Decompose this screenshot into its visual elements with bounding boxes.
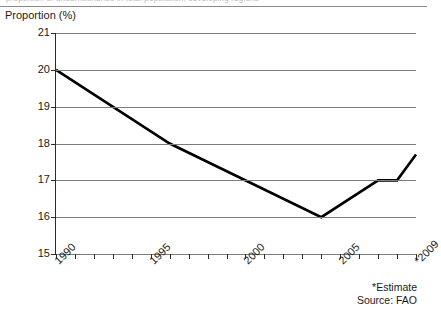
y-tick-label-17: 17 xyxy=(10,173,50,185)
gridline-y-21 xyxy=(56,33,416,34)
y-tick-label-18: 18 xyxy=(10,137,50,149)
y-tick-label-20: 20 xyxy=(10,63,50,75)
y-tick-21 xyxy=(51,33,56,34)
gridline-y-19 xyxy=(56,107,416,108)
x-tick-label-2009: *2009 xyxy=(412,238,441,267)
source-note: Source: FAO xyxy=(357,294,417,307)
y-tick-19 xyxy=(51,107,56,108)
gridline-y-17 xyxy=(56,180,416,181)
y-tick-label-16: 16 xyxy=(10,210,50,222)
y-tick-label-15: 15 xyxy=(10,247,50,259)
gridline-y-16 xyxy=(56,217,416,218)
cutoff-caption-text: proportion of undernourished in total po… xyxy=(6,0,259,3)
gridline-y-20 xyxy=(56,70,416,71)
plot-area xyxy=(56,33,416,254)
y-axis-tick-labels: 21201918171615 xyxy=(8,33,50,254)
y-tick-label-19: 19 xyxy=(10,100,50,112)
estimate-note: *Estimate xyxy=(357,281,417,294)
y-axis-title: Proportion (%) xyxy=(5,9,76,21)
y-tick-17 xyxy=(51,180,56,181)
y-tick-label-21: 21 xyxy=(10,26,50,38)
gridline-y-18 xyxy=(56,144,416,145)
chart-footnotes: *Estimate Source: FAO xyxy=(357,281,417,306)
y-tick-16 xyxy=(51,217,56,218)
top-divider-rule xyxy=(0,6,427,7)
y-tick-20 xyxy=(51,70,56,71)
y-tick-18 xyxy=(51,144,56,145)
